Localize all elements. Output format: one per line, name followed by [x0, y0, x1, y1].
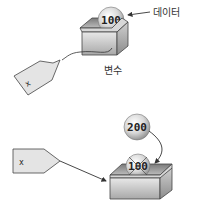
assign-arrow: [149, 131, 162, 163]
old-data-ball: 100: [126, 154, 150, 178]
new-ball-value: 200: [127, 121, 147, 134]
new-data-ball: 200: [124, 114, 150, 140]
bottom-variable-tag: x: [13, 149, 60, 173]
data-label: 데이터: [153, 7, 180, 18]
reference-arrow: [60, 161, 106, 181]
data-arrow: [128, 12, 150, 15]
bottom-tag-label: x: [19, 158, 24, 167]
bottom-diagram: 200 100 x: [13, 114, 172, 199]
top-diagram: 100 데이터 x 변수: [14, 7, 180, 95]
variable-label: 변수: [104, 65, 122, 76]
variable-assignment-diagram: 100 데이터 x 변수 200 100: [0, 0, 197, 210]
variable-tag: x: [14, 60, 60, 95]
